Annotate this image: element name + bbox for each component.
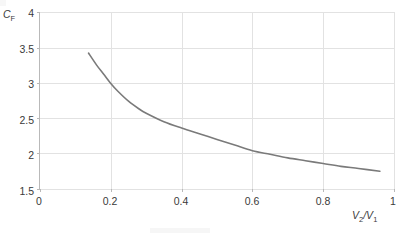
x-axis-title-base-1: V	[352, 209, 359, 221]
x-tick-label: 0	[36, 196, 42, 207]
series-line-cf	[89, 53, 380, 171]
x-axis-title: V2/V1	[352, 209, 377, 224]
data-series-layer	[40, 12, 394, 189]
x-tick-label: 0.4	[174, 196, 189, 207]
x-tick-label: 1	[390, 196, 396, 207]
x-tick-label: 0.2	[103, 196, 118, 207]
x-axis-title-subscript-2: 1	[373, 215, 377, 224]
chart-figure: CF 4 3.5 3 2.5 2 1.5 0 0.2 0.4 0.6 0.8 1…	[0, 0, 408, 235]
x-tick-label: 0.6	[245, 196, 260, 207]
x-tick-label: 0.8	[316, 196, 331, 207]
plot-area	[39, 12, 394, 190]
